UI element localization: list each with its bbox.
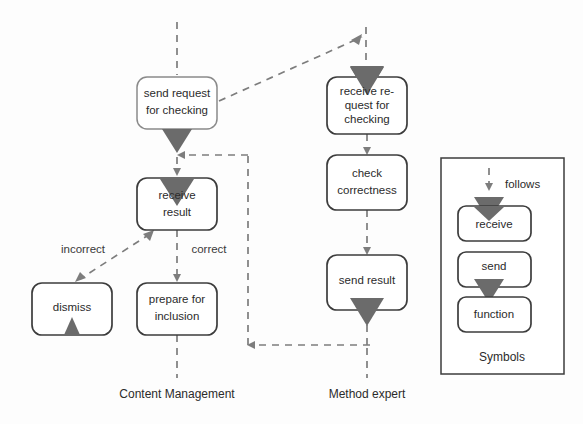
- lane-label-method-expert: Method expert: [329, 387, 406, 401]
- node-label-line: dismiss: [53, 301, 92, 313]
- lane-label-content-management: Content Management: [119, 387, 235, 401]
- node-send-request-for-checking[interactable]: send request for checking: [137, 77, 217, 153]
- edge-receive-request-to-check: [363, 134, 371, 155]
- edge-check-to-send-result: [363, 210, 371, 255]
- node-send-result[interactable]: send result: [327, 255, 407, 326]
- node-label-line: send result: [339, 274, 396, 286]
- node-label-line: result: [163, 206, 192, 218]
- node-dismiss[interactable]: dismiss: [32, 283, 112, 335]
- node-label-line: receive re-: [340, 85, 394, 97]
- legend-panel: follows receive send function Symbols: [441, 158, 564, 374]
- node-label-line: for checking: [146, 104, 208, 116]
- legend-item-label: function: [474, 308, 514, 320]
- edge-label-correct: correct: [191, 243, 227, 255]
- diagram-canvas: send request for checking receive result…: [0, 0, 583, 424]
- node-receive-request-for-checking[interactable]: receive re- quest for checking: [327, 66, 407, 134]
- node-label-line: inclusion: [155, 310, 200, 322]
- legend-title: Symbols: [479, 350, 525, 364]
- legend-item-function: function: [458, 297, 531, 332]
- node-label-line: check: [352, 167, 382, 179]
- edge-label-incorrect: incorrect: [61, 243, 106, 255]
- node-receive-result[interactable]: receive result: [137, 178, 217, 230]
- node-label-line: receive: [158, 189, 195, 201]
- node-check-correctness[interactable]: check correctness: [327, 155, 407, 210]
- node-label-line: quest for: [345, 99, 390, 111]
- node-label-line: prepare for: [149, 293, 205, 305]
- legend-item-label: receive: [475, 218, 512, 230]
- node-label-line: correctness: [337, 184, 397, 196]
- node-prepare-for-inclusion[interactable]: prepare for inclusion: [137, 283, 217, 335]
- edge-receive-result-to-dismiss: [75, 230, 154, 282]
- node-label-line: send request: [144, 87, 211, 99]
- legend-follows-label: follows: [505, 178, 540, 190]
- node-label-line: checking: [344, 113, 389, 125]
- legend-item-label: send: [482, 260, 507, 272]
- edge-receive-result-to-prepare: [173, 230, 181, 282]
